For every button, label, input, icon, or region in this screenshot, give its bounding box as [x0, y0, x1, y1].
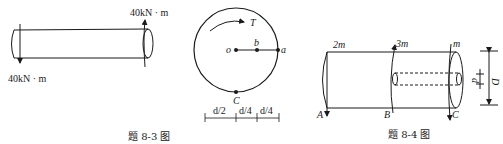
dim-label-1: d/2 [213, 105, 226, 116]
shaft-8-3 [12, 20, 154, 67]
point-a-label: a [281, 44, 286, 55]
torque-2m-label: 2m [333, 39, 345, 50]
dim-label-2: d/4 [239, 105, 252, 116]
inner-d-label: d [470, 78, 481, 84]
point-c-label-8-4: C [452, 109, 459, 120]
torque-label-right: 40kN · m [130, 7, 169, 18]
point-b-label: b [254, 37, 259, 48]
dim-label-3: d/4 [260, 105, 273, 116]
caption-8-4: 题 8-4 图 [388, 129, 430, 140]
point-a-label-8-4: A [316, 109, 324, 120]
point-o-label: o [226, 44, 231, 55]
caption-8-3: 题 8-3 图 [128, 131, 170, 142]
section-points [234, 48, 280, 94]
torque-t-label: T [250, 17, 257, 28]
outer-d-label: D [490, 77, 501, 86]
torque-m-label: m [453, 38, 460, 49]
point-b-label-8-4: B [384, 109, 390, 120]
torque-label-left: 40kN · m [8, 73, 47, 84]
torque-3m-label: 3m [395, 38, 408, 49]
